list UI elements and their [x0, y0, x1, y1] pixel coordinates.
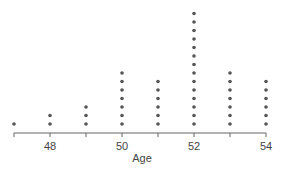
data-dot: [264, 105, 268, 109]
data-dot: [264, 114, 268, 118]
data-dot: [228, 97, 232, 101]
data-dot: [192, 71, 196, 75]
data-dot: [192, 105, 196, 109]
data-dot: [192, 88, 196, 92]
data-dot: [84, 122, 88, 126]
data-dot: [156, 88, 160, 92]
data-dot: [192, 63, 196, 67]
data-dot: [192, 114, 196, 118]
data-dot: [228, 88, 232, 92]
data-dot: [228, 80, 232, 84]
data-dot: [84, 105, 88, 109]
dots-layer: [12, 12, 268, 126]
x-axis-title: Age: [132, 152, 152, 164]
data-dot: [120, 122, 124, 126]
data-dot: [264, 88, 268, 92]
dot-plot: 48505254 Age: [0, 0, 285, 172]
data-dot: [48, 114, 52, 118]
data-dot: [192, 12, 196, 16]
x-tick-label: 54: [260, 140, 272, 152]
data-dot: [120, 71, 124, 75]
data-dot: [192, 80, 196, 84]
data-dot: [192, 37, 196, 41]
x-tick-label: 50: [116, 140, 128, 152]
data-dot: [84, 114, 88, 118]
data-dot: [120, 80, 124, 84]
data-dot: [120, 105, 124, 109]
data-dot: [120, 114, 124, 118]
data-dot: [192, 122, 196, 126]
data-dot: [228, 71, 232, 75]
data-dot: [192, 20, 196, 24]
data-dot: [264, 80, 268, 84]
x-tick-label: 48: [44, 140, 56, 152]
data-dot: [228, 114, 232, 118]
data-dot: [228, 105, 232, 109]
data-dot: [192, 46, 196, 50]
data-dot: [228, 122, 232, 126]
data-dot: [264, 122, 268, 126]
data-dot: [48, 122, 52, 126]
data-dot: [156, 80, 160, 84]
data-dot: [120, 88, 124, 92]
data-dot: [156, 105, 160, 109]
data-dot: [156, 114, 160, 118]
data-dot: [120, 97, 124, 101]
data-dot: [12, 122, 16, 126]
x-axis-tick-labels: 48505254: [44, 140, 272, 152]
data-dot: [156, 97, 160, 101]
data-dot: [192, 29, 196, 33]
x-tick-label: 52: [188, 140, 200, 152]
data-dot: [156, 122, 160, 126]
data-dot: [192, 97, 196, 101]
data-dot: [192, 54, 196, 58]
data-dot: [264, 97, 268, 101]
x-axis-ticks: [14, 133, 266, 137]
